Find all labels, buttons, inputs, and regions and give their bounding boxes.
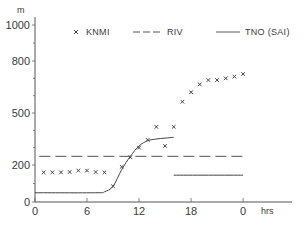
x-marker-icon [74,30,78,34]
knmi-data-point [94,170,98,174]
y-tick-label: 1000 [6,19,30,31]
knmi-data-point [85,169,89,173]
legend-item-knmi: KNMI [74,27,110,37]
knmi-data-point [181,100,185,104]
legend-label-knmi: KNMI [86,27,110,37]
y-tick-label: 0 [24,196,30,208]
knmi-data-point [224,77,228,81]
knmi-data-point [77,169,81,173]
knmi-data-point [103,171,107,175]
y-tick-label: 200 [12,159,30,171]
y-tick-label: 500 [12,107,30,119]
x-tick-label: 0 [32,205,38,217]
legend-item-riv: RIV [133,27,183,37]
knmi-data-point [189,90,193,94]
legend: KNMI RIV TNO (SAI) [74,27,290,37]
knmi-data-point [163,144,167,148]
knmi-data-point [233,75,237,79]
x-axis-unit-label: hrs [261,206,274,216]
x-tick-label: 0 [240,205,246,217]
tno-solid-line [35,137,174,193]
knmi-data-point [172,125,176,129]
knmi-data-point [155,125,159,129]
y-tick-label: 800 [12,55,30,67]
knmi-data-point [51,171,55,175]
knmi-data-point [215,78,219,82]
x-tick-label: 12 [133,205,145,217]
x-axis-ticks: 0612180 [32,198,246,217]
plot-area [35,72,245,193]
knmi-data-point [241,72,245,76]
y-axis-unit-label: m [17,5,25,15]
knmi-data-point [59,171,63,175]
chart: 02005008001000 0612180 m hrs KNMI RIV TN… [0,0,307,226]
legend-item-tno: TNO (SAI) [216,27,290,37]
legend-label-riv: RIV [167,27,183,37]
x-tick-label: 6 [84,205,90,217]
knmi-data-point [198,83,202,87]
knmi-data-point [42,171,46,175]
y-axis-ticks: 02005008001000 [6,19,35,208]
knmi-data-point [68,170,72,174]
legend-label-tno: TNO (SAI) [245,27,290,37]
knmi-data-point [207,78,211,82]
x-tick-label: 18 [185,205,197,217]
